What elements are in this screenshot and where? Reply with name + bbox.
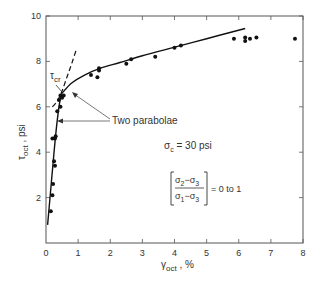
- data-point: [52, 159, 56, 163]
- stress-ratio-annotation: σ2−σ3 σ1−σ3 = 0 to 1: [171, 172, 241, 205]
- x-tick-label: 8: [300, 248, 305, 258]
- plot-frame: [46, 16, 303, 243]
- data-point: [89, 73, 93, 77]
- data-point: [243, 36, 247, 40]
- data-point: [232, 37, 236, 41]
- parabola-curve: [62, 28, 245, 93]
- y-tick-label: 8: [36, 56, 41, 66]
- data-point: [58, 105, 62, 109]
- data-point: [254, 36, 258, 40]
- y-tick-label: 2: [36, 193, 41, 203]
- data-point: [293, 37, 297, 41]
- svg-text:σ1−σ3: σ1−σ3: [175, 191, 199, 203]
- data-point: [173, 46, 177, 50]
- svg-text:τcr: τcr: [50, 70, 61, 84]
- y-tick-label: 10: [31, 11, 41, 21]
- y-axis-ticks: 246810: [31, 11, 303, 203]
- curve-layer: [48, 28, 246, 224]
- svg-text:= 0 to 1: = 0 to 1: [211, 184, 241, 194]
- x-axis-label: γoct , %: [161, 259, 194, 273]
- data-point: [129, 57, 133, 61]
- x-tick-label: 2: [108, 248, 113, 258]
- data-point: [179, 44, 183, 48]
- y-tick-label: 4: [36, 147, 41, 157]
- chart: 012345678 246810 τcr Two parabolae σc = …: [0, 0, 324, 283]
- parabola-curve: [48, 93, 62, 225]
- x-tick-label: 7: [268, 248, 273, 258]
- y-tick-label: 6: [36, 102, 41, 112]
- data-point: [49, 209, 53, 213]
- x-tick-label: 3: [140, 248, 145, 258]
- tau-cr-annotation: τcr: [50, 70, 62, 92]
- x-tick-label: 6: [236, 248, 241, 258]
- y-axis-label: τoct , psi: [16, 124, 30, 160]
- data-point: [243, 39, 247, 43]
- x-axis-ticks: 012345678: [43, 16, 305, 258]
- two-parabolae-annotation: Two parabolae: [57, 92, 178, 126]
- data-point: [248, 37, 252, 41]
- data-point: [97, 66, 101, 70]
- data-point: [55, 109, 59, 113]
- x-tick-label: 1: [76, 248, 81, 258]
- data-point: [57, 98, 61, 102]
- data-point: [95, 75, 99, 79]
- data-point: [51, 182, 55, 186]
- x-tick-label: 4: [172, 248, 177, 258]
- data-point: [50, 193, 54, 197]
- confining-pressure-label: σc = 30 psi: [164, 140, 212, 153]
- x-tick-label: 0: [43, 248, 48, 258]
- x-tick-label: 5: [204, 248, 209, 258]
- data-point: [60, 96, 64, 100]
- data-point: [53, 164, 57, 168]
- data-point: [53, 137, 57, 141]
- tau-cr-leader: [56, 85, 62, 92]
- svg-text:σ2−σ3: σ2−σ3: [175, 175, 199, 187]
- data-point: [153, 55, 157, 59]
- data-point: [124, 62, 128, 66]
- two-parabolae-label: Two parabolae: [112, 115, 178, 126]
